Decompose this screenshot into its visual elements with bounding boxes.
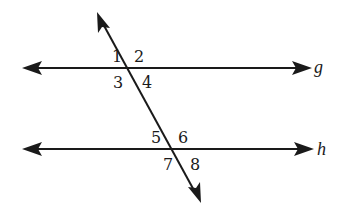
- arrowhead-down-icon: [188, 182, 201, 203]
- transversal: [97, 12, 201, 203]
- angle-label-4: 4: [142, 73, 152, 92]
- angle-label-3: 3: [113, 73, 123, 92]
- arrowhead-up-icon: [97, 12, 110, 33]
- line-label-g: g: [314, 57, 323, 77]
- angle-label-1: 1: [112, 47, 122, 66]
- line-label-h: h: [317, 139, 326, 159]
- parallel-lines-diagram: g h 1 2 3 4 5 6 7 8: [0, 0, 343, 208]
- angle-label-7: 7: [163, 155, 173, 174]
- line-h: h: [22, 139, 326, 159]
- angle-label-5: 5: [151, 128, 161, 147]
- angle-label-6: 6: [178, 128, 188, 147]
- line-g: g: [22, 57, 323, 77]
- angle-label-2: 2: [134, 47, 144, 66]
- angle-label-8: 8: [190, 155, 200, 174]
